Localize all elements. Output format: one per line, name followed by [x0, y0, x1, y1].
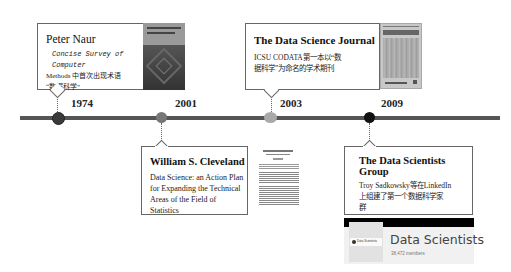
- linkedin-group-card[interactable]: Data Scientists Data Scientists 38,472 m…: [344, 218, 474, 264]
- timeline-dot-2003[interactable]: [264, 112, 277, 123]
- notch-mask: [155, 146, 168, 148]
- year-label-1974: 1974: [71, 97, 93, 109]
- year-label-2003: 2003: [280, 97, 302, 109]
- journal-cover-thumbnail: [380, 23, 422, 89]
- year-label-2009: 2009: [381, 97, 403, 109]
- event-title: Peter Naur: [46, 33, 143, 45]
- book-cover-thumbnail: [143, 23, 185, 90]
- year-label-2001: 2001: [175, 97, 197, 109]
- timeline-dot-1974[interactable]: [52, 112, 65, 125]
- event-title: The Data Scientists Group: [359, 155, 472, 177]
- notch-mask: [363, 146, 376, 148]
- event-description: ICSU CODATA第一本以“数 据科学”为命名的学术期刊: [254, 52, 379, 74]
- callout-2009: The Data Scientists Group Troy Sadkowsky…: [344, 146, 473, 215]
- timeline-dot-2009[interactable]: [364, 112, 375, 123]
- paper-thumbnail: [257, 148, 301, 208]
- group-logo: Data Scientists: [349, 222, 383, 262]
- member-count: 38,472 members: [391, 251, 425, 256]
- logo-icon: [352, 240, 356, 244]
- callout-2001: William S. Cleveland Data Science: an Ac…: [141, 146, 248, 215]
- event-title: The Data Science Journal: [254, 34, 379, 46]
- timeline-dot-2001[interactable]: [156, 112, 167, 123]
- timeline-axis: [20, 116, 500, 120]
- event-title: William S. Cleveland: [150, 156, 247, 167]
- group-name[interactable]: Data Scientists: [390, 232, 484, 247]
- event-description: Troy Sadkowsky等在LinkedIn 上组建了第一个数据科学家 群: [359, 180, 472, 213]
- callout-1974: Peter Naur Concise Survey of Computer Me…: [37, 23, 144, 90]
- event-description: Data Science: an Action Plan for Expandi…: [150, 172, 247, 216]
- callout-2003: The Data Science Journal ICSU CODATA第一本以…: [245, 23, 380, 90]
